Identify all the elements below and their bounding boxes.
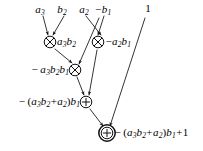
edge-arrow	[90, 109, 103, 126]
input-label-1: 1	[145, 3, 151, 14]
computation-graph: a3b2a2−b11a3b2−a2b1− a3b2b1− (a3b2+a2)b1…	[0, 0, 203, 151]
edge-arrow	[55, 49, 72, 63]
node-add[interactable]	[80, 96, 92, 108]
node-multiply[interactable]	[92, 36, 104, 48]
input-label-b1: −b1	[95, 4, 112, 15]
input-label-b2: b2	[57, 4, 67, 15]
node-label-add-out: − (a3b2+a2)b1+1	[114, 127, 188, 138]
edge-arrow	[53, 16, 64, 35]
edge-arrow	[77, 77, 84, 95]
edge-arrow	[89, 50, 97, 95]
input-label-a3: a3	[35, 4, 45, 15]
node-add-output[interactable]	[99, 125, 115, 141]
node-multiply[interactable]	[44, 36, 56, 48]
edge-arrow	[43, 16, 48, 35]
node-label-mul-1: a3b2	[57, 36, 76, 47]
node-multiply[interactable]	[69, 64, 81, 76]
nodes-group	[44, 36, 115, 141]
node-label-mul-2: −a2b1	[105, 36, 131, 47]
input-label-a2: a2	[79, 4, 89, 15]
node-label-mul-3: − a3b2b1	[31, 64, 69, 75]
node-label-add-1: − (a3b2+a2)b1	[18, 96, 80, 107]
